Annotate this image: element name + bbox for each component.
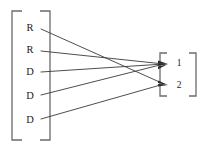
left-bracket-path xyxy=(12,11,22,140)
edge-line xyxy=(41,64,164,72)
mapping-diagram: R R D D D 1 2 xyxy=(0,0,210,151)
left-item-label-5: D xyxy=(26,114,34,125)
left-item-label-2: R xyxy=(26,44,33,55)
edge-line xyxy=(41,84,164,119)
left-item-label-4: D xyxy=(26,90,34,101)
right-bracket-path-left xyxy=(160,53,167,96)
edge-line xyxy=(41,29,164,84)
right-item-label-2: 2 xyxy=(177,80,182,90)
left-labels: R R D D D xyxy=(26,22,34,125)
edge-line xyxy=(41,51,164,64)
edge-line xyxy=(41,64,164,95)
right-item-label-1: 1 xyxy=(177,58,182,68)
right-labels: 1 2 xyxy=(177,58,182,90)
diagram-canvas: R R D D D 1 2 xyxy=(0,0,210,151)
left-item-label-3: D xyxy=(26,66,34,77)
right-bracket-path xyxy=(189,53,196,96)
left-item-label-1: R xyxy=(26,22,33,33)
edge-group xyxy=(41,29,164,119)
